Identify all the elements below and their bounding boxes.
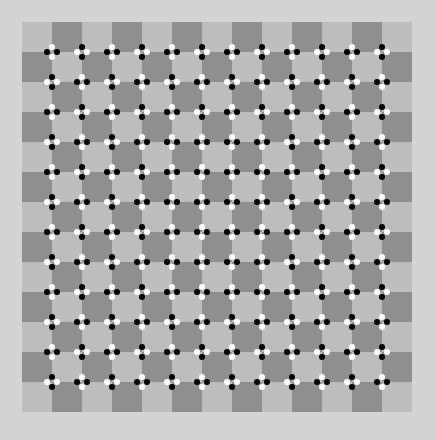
white-dot-icon — [139, 324, 145, 330]
black-dot-icon — [79, 354, 85, 360]
black-dot-icon — [379, 234, 385, 240]
black-dot-icon — [174, 109, 180, 115]
checker-cell — [292, 52, 322, 82]
white-dot-icon — [229, 54, 235, 60]
checker-cell — [292, 232, 322, 262]
checker-cell — [82, 82, 112, 112]
black-dot-icon — [144, 379, 150, 385]
black-dot-icon — [284, 229, 290, 235]
white-dot-icon — [374, 49, 380, 55]
checker-cell — [22, 142, 52, 172]
black-dot-icon — [254, 169, 260, 175]
checker-cell — [382, 202, 412, 232]
black-dot-icon — [194, 229, 200, 235]
checker-cell — [202, 382, 232, 412]
black-dot-icon — [139, 174, 145, 180]
white-dot-icon — [229, 204, 235, 210]
white-dot-icon — [174, 79, 180, 85]
white-dot-icon — [314, 349, 320, 355]
white-dot-icon — [199, 294, 205, 300]
white-dot-icon — [139, 384, 145, 390]
white-dot-icon — [294, 379, 300, 385]
checker-cell — [322, 202, 352, 232]
checker-cell — [322, 232, 352, 262]
checker-cell — [112, 142, 142, 172]
black-dot-icon — [319, 354, 325, 360]
checker-cell — [262, 52, 292, 82]
black-dot-icon — [194, 199, 200, 205]
checker-cell — [352, 202, 382, 232]
checker-cell — [292, 382, 322, 412]
black-dot-icon — [254, 289, 260, 295]
white-dot-icon — [74, 109, 80, 115]
black-dot-icon — [164, 49, 170, 55]
black-dot-icon — [49, 264, 55, 270]
black-dot-icon — [264, 259, 270, 265]
white-dot-icon — [259, 84, 265, 90]
white-dot-icon — [224, 319, 230, 325]
black-dot-icon — [314, 79, 320, 85]
white-dot-icon — [169, 54, 175, 60]
white-dot-icon — [54, 139, 60, 145]
black-dot-icon — [174, 349, 180, 355]
checker-cell — [142, 142, 172, 172]
checker-cell — [352, 292, 382, 322]
black-dot-icon — [319, 234, 325, 240]
white-dot-icon — [169, 264, 175, 270]
white-dot-icon — [74, 349, 80, 355]
black-dot-icon — [224, 49, 230, 55]
checker-cell — [202, 292, 232, 322]
black-dot-icon — [54, 349, 60, 355]
white-dot-icon — [199, 264, 205, 270]
white-dot-icon — [169, 234, 175, 240]
black-dot-icon — [349, 84, 355, 90]
white-dot-icon — [79, 264, 85, 270]
checker-cell — [262, 82, 292, 112]
white-dot-icon — [324, 229, 330, 235]
checker-cell — [292, 112, 322, 142]
checker-cell — [352, 142, 382, 172]
black-dot-icon — [294, 229, 300, 235]
black-dot-icon — [44, 349, 50, 355]
white-dot-icon — [349, 294, 355, 300]
checker-cell — [112, 22, 142, 52]
white-dot-icon — [44, 259, 50, 265]
checker-cell — [112, 112, 142, 142]
checker-cell — [382, 142, 412, 172]
white-dot-icon — [224, 379, 230, 385]
white-dot-icon — [204, 109, 210, 115]
white-dot-icon — [49, 174, 55, 180]
checker-cell — [142, 82, 172, 112]
white-dot-icon — [379, 264, 385, 270]
checker-cell — [82, 292, 112, 322]
checker-cell — [172, 142, 202, 172]
white-dot-icon — [164, 379, 170, 385]
checker-cell — [52, 22, 82, 52]
white-dot-icon — [259, 264, 265, 270]
white-dot-icon — [49, 54, 55, 60]
checker-cell — [382, 82, 412, 112]
black-dot-icon — [344, 229, 350, 235]
white-dot-icon — [54, 319, 60, 325]
checker-cell — [262, 382, 292, 412]
black-dot-icon — [374, 79, 380, 85]
checker-cell — [352, 172, 382, 202]
white-dot-icon — [344, 79, 350, 85]
white-dot-icon — [324, 169, 330, 175]
white-dot-icon — [354, 379, 360, 385]
white-dot-icon — [194, 109, 200, 115]
white-dot-icon — [319, 204, 325, 210]
black-dot-icon — [204, 199, 210, 205]
white-dot-icon — [144, 109, 150, 115]
checker-cell — [292, 352, 322, 382]
black-dot-icon — [194, 79, 200, 85]
checker-cell — [142, 22, 172, 52]
black-dot-icon — [294, 349, 300, 355]
white-dot-icon — [134, 169, 140, 175]
black-dot-icon — [174, 49, 180, 55]
checker-cell — [172, 322, 202, 352]
white-dot-icon — [139, 84, 145, 90]
black-dot-icon — [284, 289, 290, 295]
black-dot-icon — [84, 199, 90, 205]
black-dot-icon — [224, 109, 230, 115]
